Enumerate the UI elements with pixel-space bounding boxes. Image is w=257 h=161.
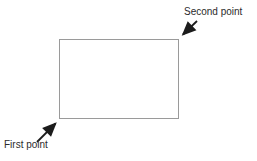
diagram-canvas: Second point First point: [0, 0, 257, 161]
first-point-label: First point: [4, 139, 48, 150]
rectangle-shape: [60, 40, 179, 119]
second-point-label: Second point: [184, 6, 242, 17]
diagram-figure: [0, 0, 257, 161]
second-point-arrow-icon: [183, 21, 197, 35]
